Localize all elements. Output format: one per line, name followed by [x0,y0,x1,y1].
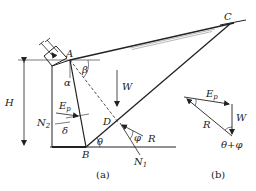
panel-b-force-polygon: Ep W R θ+φ (b) [184,88,247,180]
normal-N2-label: N2 [36,117,51,130]
passive-pressure-arrow [56,113,78,116]
polygon-R-label: R [202,119,211,130]
retaining-wall-diagram: A B C D H α β δ θ φ W R Ep N2 N1 (a) Ep … [0,0,256,191]
polygon-R [187,99,232,136]
phi-arc [130,131,133,139]
dashed-line-AD [70,60,118,122]
normal-N1-label: N1 [133,156,147,169]
polygon-W-label: W [236,112,247,123]
phi-label: φ [134,132,141,143]
caption-b: (b) [211,169,225,180]
height-label: H [4,97,14,108]
polygon-angle-arc-bottom [225,127,232,130]
point-D-label: D [102,116,111,127]
theta-plus-phi-label: θ+φ [221,139,242,150]
weight-label: W [122,81,133,92]
caption-a: (a) [96,169,110,180]
delta-label: δ [62,125,68,136]
beta-label: β [81,64,88,75]
backfill-hatch [130,29,215,50]
alpha-label: α [64,77,71,88]
resultant-label: R [147,133,156,144]
point-B-label: B [81,149,89,160]
point-A-label: A [65,48,73,59]
theta-label: θ [97,136,103,147]
passive-pressure-label: Ep [58,100,71,113]
polygon-Ep-label: Ep [205,88,218,101]
point-C-label: C [224,11,232,22]
polygon-angle-arc-top [195,99,196,106]
